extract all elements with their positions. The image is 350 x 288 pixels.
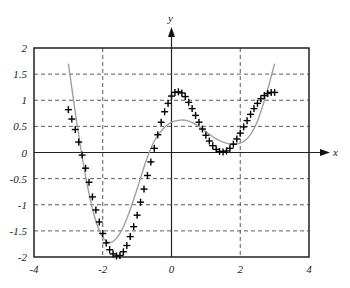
plus-marker-icon <box>65 106 72 113</box>
y-axis-label: y <box>167 12 173 24</box>
y-tick-label: 2 <box>22 42 28 54</box>
y-axis-arrow-icon <box>168 27 175 37</box>
plus-marker-icon <box>165 100 172 107</box>
y-tick-label: -0.5 <box>10 173 28 185</box>
y-tick-label: 0 <box>22 147 28 159</box>
plus-marker-icon <box>147 158 154 165</box>
plus-marker-icon <box>175 88 182 95</box>
plus-marker-icon <box>130 223 137 230</box>
plus-marker-icon <box>237 130 244 137</box>
plus-marker-icon <box>141 186 148 193</box>
plus-marker-icon <box>106 246 113 253</box>
plus-marker-icon <box>220 148 227 155</box>
plus-marker-icon <box>240 123 247 130</box>
function-plot: 21.510.50-0.5-1-1.5-2-4-2024 x y <box>0 0 350 288</box>
plus-marker-icon <box>75 139 82 146</box>
x-axis-label: x <box>332 146 338 158</box>
plus-marker-icon <box>120 248 127 255</box>
plus-marker-icon <box>161 108 168 115</box>
plus-marker-icon <box>251 105 258 112</box>
plus-marker-icon <box>137 199 144 206</box>
y-tick-label: -1.5 <box>10 225 28 237</box>
y-tick-label: -1 <box>18 199 27 211</box>
plus-marker-icon <box>271 89 278 96</box>
y-tick-label: 1.5 <box>13 68 27 80</box>
plus-marker-icon <box>247 111 254 118</box>
plus-marker-icon <box>178 89 185 96</box>
plus-marker-icon <box>134 212 141 219</box>
x-tick-label: 4 <box>306 263 312 275</box>
y-tick-label: 1 <box>22 94 28 106</box>
y-tick-label: -2 <box>18 251 28 263</box>
plus-marker-icon <box>127 233 134 240</box>
plus-marker-icon <box>116 252 123 259</box>
plus-marker-icon <box>182 93 189 100</box>
tick-labels: 21.510.50-0.5-1-1.5-2-4-2024 <box>10 42 313 275</box>
x-tick-label: -2 <box>98 263 108 275</box>
plus-marker-icon <box>103 239 110 246</box>
plus-marker-icon <box>192 112 199 119</box>
plus-marker-icon <box>189 105 196 112</box>
plus-marker-icon <box>144 172 151 179</box>
x-tick-label: -4 <box>29 263 39 275</box>
plus-marker-icon <box>68 116 75 123</box>
x-tick-label: 0 <box>169 263 175 275</box>
plus-marker-icon <box>230 141 237 148</box>
plus-marker-icon <box>209 142 216 149</box>
x-tick-label: 2 <box>238 263 244 275</box>
plus-marker-icon <box>233 135 240 142</box>
plus-marker-icon <box>158 119 165 126</box>
x-axis-arrow-icon <box>320 149 330 156</box>
plus-marker-icon <box>244 117 251 124</box>
plus-marker-icon <box>206 138 213 145</box>
plus-marker-icon <box>254 100 261 107</box>
plus-marker-icon <box>168 93 175 100</box>
plus-marker-icon <box>123 242 130 249</box>
y-tick-label: 0.5 <box>13 120 27 132</box>
